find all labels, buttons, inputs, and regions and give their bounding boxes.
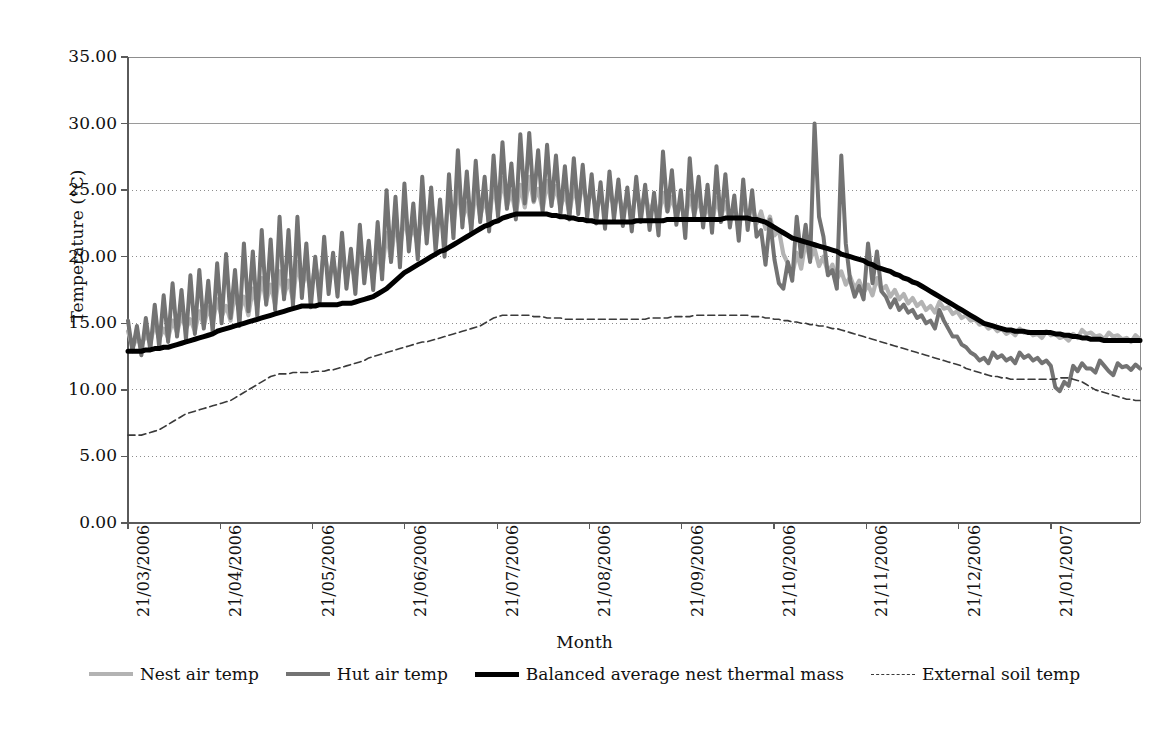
chart-legend: Nest air tempHut air tempBalanced averag… [0, 664, 1169, 684]
series-line-external-soil-temp [128, 315, 1140, 435]
series-line-hut-air-temp [128, 124, 1140, 392]
y-axis-tick-label: 10.00 [33, 379, 117, 399]
legend-label: External soil temp [922, 664, 1080, 684]
legend-label: Nest air temp [140, 664, 259, 684]
y-axis-tick-label: 30.00 [33, 113, 117, 133]
y-axis-tick-label: 5.00 [33, 445, 117, 465]
x-axis-tick-label: 21/07/2006 [503, 525, 522, 617]
x-axis-tick-label: 21/06/2006 [411, 525, 430, 617]
x-axis-tick-label: 21/04/2006 [226, 525, 245, 617]
legend-item: Balanced average nest thermal mass [475, 664, 844, 684]
chart-canvas [0, 0, 1169, 735]
legend-item: External soil temp [871, 664, 1080, 684]
legend-item: Hut air temp [286, 664, 448, 684]
x-axis-title: Month [0, 632, 1169, 652]
y-axis-tick-label: 25.00 [33, 179, 117, 199]
y-axis-tick-label: 0.00 [33, 512, 117, 532]
x-axis-tick-label: 21/05/2006 [319, 525, 338, 617]
y-axis-tick-label: 20.00 [33, 246, 117, 266]
legend-label: Hut air temp [337, 664, 448, 684]
x-axis-tick-label: 21/09/2006 [688, 525, 707, 617]
x-axis-tick-label: 21/12/2006 [965, 525, 984, 617]
y-axis-tick-label: 15.00 [33, 312, 117, 332]
legend-item: Nest air temp [89, 664, 259, 684]
chart-figure: Temperature (°C) 0.005.0010.0015.0020.00… [0, 0, 1169, 735]
legend-label: Balanced average nest thermal mass [526, 664, 844, 684]
x-axis-tick-label: 21/11/2006 [872, 525, 891, 617]
x-axis-tick-label: 21/03/2006 [134, 525, 153, 617]
y-axis-tick-label: 35.00 [33, 46, 117, 66]
x-axis-tick-label: 21/01/2007 [1057, 525, 1076, 617]
x-axis-tick-label: 21/08/2006 [595, 525, 614, 617]
x-axis-tick-label: 21/10/2006 [780, 525, 799, 617]
